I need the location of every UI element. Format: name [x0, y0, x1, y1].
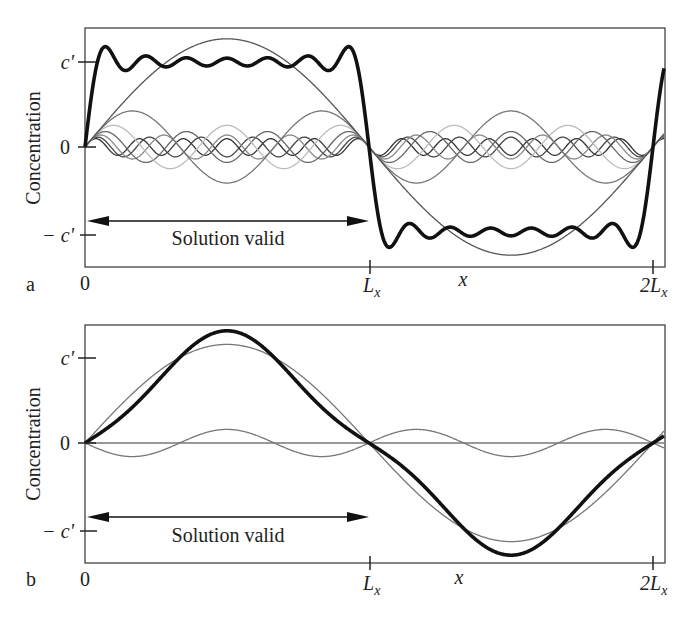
solution-valid-label: Solution valid: [172, 227, 285, 249]
ytick-label-neg-cprime: − c': [42, 224, 74, 246]
panel-label-b: b: [26, 568, 36, 590]
ytick-label-zero: 0: [60, 136, 70, 158]
y-axis-label: Concentration: [22, 91, 44, 204]
panel-label-a: a: [26, 273, 35, 295]
panel-b: c' 0 − c' Concentration 0 Lx 2Lx x b Sol…: [22, 325, 668, 598]
xtick-label-zero: 0: [80, 272, 90, 294]
solution-valid-arrow: [87, 512, 369, 522]
xtick-label-Lx: Lx: [362, 274, 381, 300]
ytick-label-zero: 0: [60, 432, 70, 454]
xtick-label-zero: 0: [80, 568, 90, 590]
x-axis-label: x: [454, 566, 464, 588]
xtick-label-2Lx: 2Lx: [640, 572, 668, 598]
solution-valid-arrow: [87, 216, 369, 226]
curves: [85, 39, 664, 255]
solution-valid-label: Solution valid: [172, 524, 285, 546]
ytick-label-cprime: c': [61, 51, 75, 73]
xtick-label-2Lx: 2Lx: [640, 274, 668, 300]
panel-a: c' 0 − c' Concentration 0 Lx 2Lx x a Sol…: [22, 28, 668, 300]
figure: c' 0 − c' Concentration 0 Lx 2Lx x a Sol…: [0, 0, 693, 623]
curves: [85, 331, 664, 555]
ytick-label-cprime: c': [61, 347, 75, 369]
xtick-label-Lx: Lx: [362, 572, 381, 598]
y-axis-label: Concentration: [22, 387, 44, 500]
ytick-label-neg-cprime: − c': [42, 520, 74, 542]
x-axis-label: x: [458, 268, 468, 290]
